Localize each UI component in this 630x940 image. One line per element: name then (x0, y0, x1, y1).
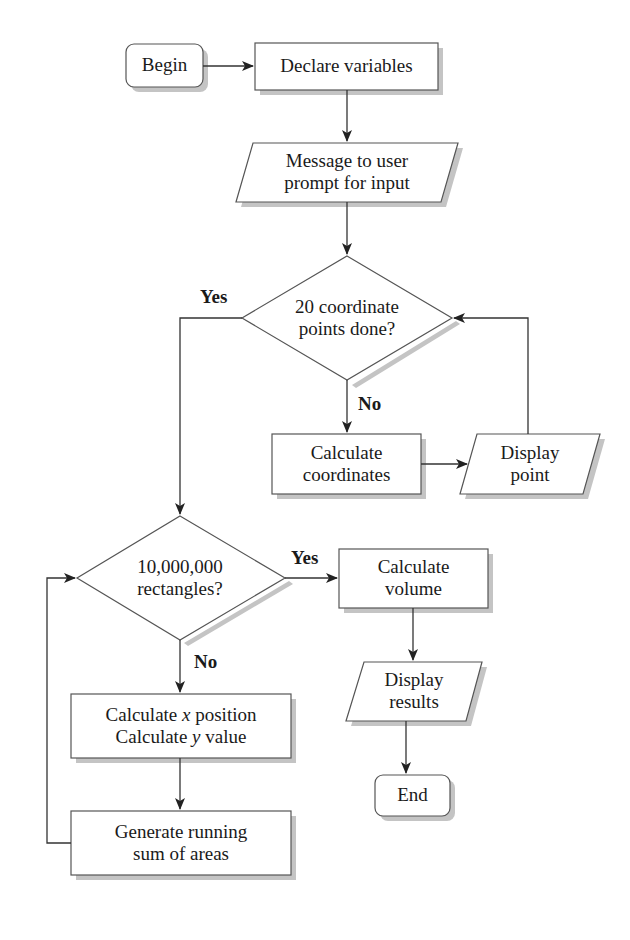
running-sum-label: Generate running sum of areas (71, 821, 291, 865)
calc-coords-label: Calculate coordinates (272, 442, 421, 486)
end-label: End (375, 784, 450, 806)
arrow-points-yes (180, 318, 242, 514)
rects-yes-label: Yes (291, 547, 318, 569)
calc-volume-label: Calculate volume (339, 556, 488, 600)
declare-label: Declare variables (255, 55, 438, 77)
arrow-display-loop-back (454, 318, 528, 434)
display-results-label: Display results (354, 669, 474, 713)
calc-xy-label: Calculate x position Calculate y value (71, 704, 291, 748)
begin-label: Begin (126, 54, 203, 76)
points-yes-label: Yes (200, 286, 227, 308)
points-no-label: No (358, 393, 381, 415)
points-decision-label: 20 coordinate points done? (272, 296, 422, 340)
rects-decision-label: 10,000,000 rectangles? (105, 556, 255, 600)
display-point-label: Display point (470, 442, 590, 486)
prompt-label: Message to user prompt for input (240, 150, 454, 194)
rects-no-label: No (194, 651, 217, 673)
